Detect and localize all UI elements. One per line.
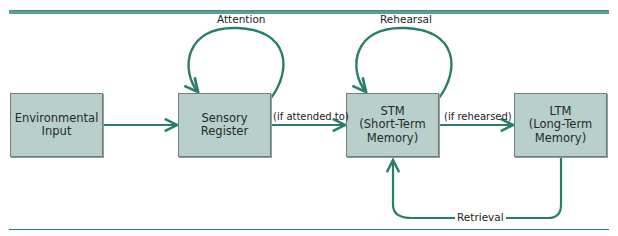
node-label-line: (Short-Term: [359, 118, 425, 132]
edge-label-retrieval: Retrieval: [455, 211, 506, 223]
edge-label-rehearsal: Rehearsal: [380, 13, 432, 25]
arrow-retrieval: [393, 158, 561, 218]
edge-label-if-rehearsed: (if rehearsed): [444, 111, 512, 122]
node-label-line: LTM: [550, 105, 572, 119]
node-label-line: Register: [201, 125, 248, 139]
node-sensory-register: Sensory Register: [178, 93, 271, 157]
node-label-line: STM: [380, 105, 404, 119]
node-label-line: Environmental: [15, 112, 99, 126]
edge-label-attention: Attention: [217, 13, 265, 25]
edge-label-if-attended: (if attended to): [273, 111, 349, 122]
node-environmental-input: Environmental Input: [10, 93, 103, 157]
node-label-line: Sensory: [201, 112, 247, 126]
arrow-rehearsal-loop: [356, 28, 451, 98]
node-label-line: Memory): [367, 132, 418, 146]
node-label-line: Input: [42, 125, 72, 139]
node-label-line: (Long-Term: [529, 118, 592, 132]
node-stm: STM (Short-Term Memory): [346, 93, 439, 157]
node-label-line: Memory): [535, 132, 586, 146]
arrow-attention-loop: [189, 28, 284, 98]
node-ltm: LTM (Long-Term Memory): [514, 93, 607, 157]
